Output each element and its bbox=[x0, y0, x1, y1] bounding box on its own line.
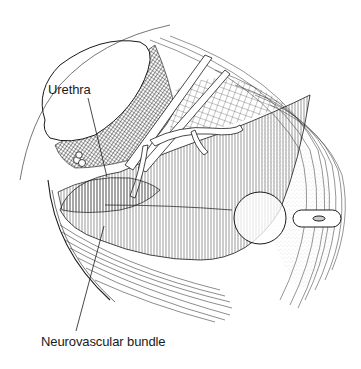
label-urethra: Urethra bbox=[48, 83, 91, 96]
catheter-eyelet bbox=[313, 216, 325, 221]
nvb-leader-line bbox=[76, 226, 104, 331]
anatomical-illustration bbox=[0, 0, 361, 369]
label-neurovascular-bundle: Neurovascular bundle bbox=[41, 335, 165, 348]
catheter-balloon bbox=[234, 192, 286, 244]
